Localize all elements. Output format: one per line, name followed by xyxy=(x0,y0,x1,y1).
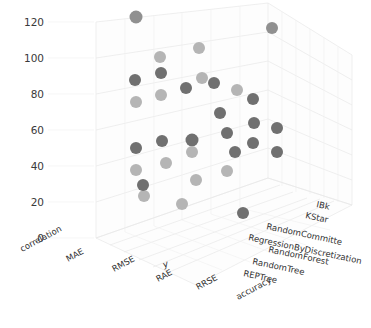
data-point xyxy=(180,82,192,94)
data-point xyxy=(155,89,167,101)
data-point xyxy=(247,93,259,105)
data-point xyxy=(130,96,142,108)
data-point xyxy=(154,51,166,63)
y-axis-ticks: 020406080100120 xyxy=(24,16,94,244)
y-tick-label: 120 xyxy=(24,16,44,28)
data-point xyxy=(186,146,198,158)
data-point xyxy=(137,179,149,191)
data-point xyxy=(208,77,220,89)
data-point xyxy=(247,137,259,149)
data-point xyxy=(129,74,141,86)
data-point xyxy=(160,157,172,169)
data-point xyxy=(266,22,278,34)
data-point xyxy=(186,134,199,147)
y-tick-label: 20 xyxy=(31,196,44,208)
scatter3d-chart: 020406080100120 correlationMAERMSERAERRS… xyxy=(0,0,371,328)
x-category-label: correlation xyxy=(18,224,63,254)
x-category-label: MAE xyxy=(64,246,85,264)
y-tick-label: 100 xyxy=(24,52,44,64)
data-point xyxy=(176,198,188,210)
data-point xyxy=(130,11,143,24)
data-point xyxy=(248,117,260,129)
x-category-label: RMSE xyxy=(110,254,136,274)
data-point xyxy=(155,67,167,79)
data-point xyxy=(190,174,202,186)
data-point xyxy=(271,122,283,134)
data-point xyxy=(196,72,208,84)
chart-canvas: 020406080100120 correlationMAERMSERAERRS… xyxy=(0,0,371,328)
y-tick-label: 80 xyxy=(31,88,44,100)
data-point xyxy=(193,42,205,54)
data-point xyxy=(130,164,142,176)
data-point xyxy=(156,135,168,147)
data-point xyxy=(221,165,233,177)
data-point xyxy=(130,142,142,154)
data-point xyxy=(214,107,226,119)
y-tick-label: 40 xyxy=(31,160,44,172)
data-point xyxy=(237,207,249,219)
data-point xyxy=(229,146,241,158)
y-tick-label: 60 xyxy=(31,124,44,136)
data-point xyxy=(221,127,233,139)
data-point xyxy=(271,146,283,158)
data-point xyxy=(231,84,243,96)
data-point xyxy=(138,190,150,202)
